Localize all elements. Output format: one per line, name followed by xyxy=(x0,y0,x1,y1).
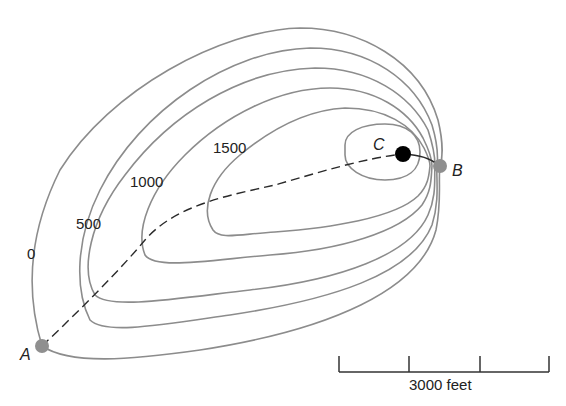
point-c-marker xyxy=(395,146,411,162)
point-b-label: B xyxy=(452,163,463,179)
contour-label-500: 500 xyxy=(76,216,101,231)
point-a-label: A xyxy=(20,347,31,363)
point-b-marker xyxy=(433,159,447,173)
contour-label-0: 0 xyxy=(27,246,35,261)
point-c-label: C xyxy=(373,137,385,153)
scale-bar-label: 3000 feet xyxy=(409,377,472,392)
scale-bar xyxy=(339,356,549,372)
contour-map xyxy=(0,0,566,406)
point-a-marker xyxy=(35,339,49,353)
route-a-to-c xyxy=(42,154,403,346)
contour-label-1500: 1500 xyxy=(213,140,246,155)
contour-label-1000: 1000 xyxy=(130,174,163,189)
